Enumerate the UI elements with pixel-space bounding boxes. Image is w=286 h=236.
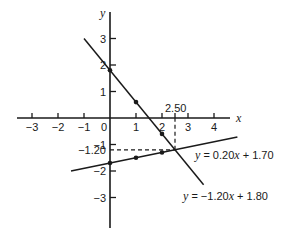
x-tick-label: 3 — [185, 121, 191, 133]
coordinate-plot: xy−3−2−101234321−1−2−32.50−1.20y = −1.20… — [0, 0, 286, 236]
x-tick-label: −3 — [26, 121, 39, 133]
x-tick-label: 1 — [133, 121, 139, 133]
annotation-y-intersection: −1.20 — [78, 144, 106, 156]
y-axis-label: y — [99, 6, 106, 20]
x-tick-label: 4 — [211, 121, 217, 133]
intersection-guide-lines — [110, 118, 175, 150]
data-point — [108, 68, 113, 73]
x-tick-label: 0 — [101, 121, 107, 133]
y-tick-label: 3 — [100, 33, 106, 45]
equation-label-2: y = 0.20x + 1.70 — [194, 148, 274, 162]
equation-label-1: y = −1.20x + 1.80 — [182, 189, 268, 203]
x-tick-label: −1 — [78, 121, 91, 133]
data-point — [160, 132, 165, 137]
chart: xy−3−2−101234321−1−2−32.50−1.20y = −1.20… — [0, 0, 286, 236]
x-axis-label: x — [235, 111, 242, 125]
data-point — [134, 100, 139, 105]
y-tick-label: −3 — [93, 192, 106, 204]
annotation-x-intersection: 2.50 — [165, 102, 186, 114]
y-tick-label: 1 — [100, 86, 106, 98]
data-point — [134, 155, 139, 160]
data-point — [108, 161, 113, 166]
data-point — [160, 150, 165, 155]
x-tick-label: −2 — [52, 121, 65, 133]
